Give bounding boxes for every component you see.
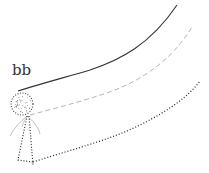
dotted-tail	[18, 116, 33, 165]
stipple-dot	[16, 105, 17, 106]
dotted-curve	[33, 81, 200, 162]
stipple-dot	[26, 110, 27, 111]
dashed-curve	[30, 27, 192, 115]
stippled-sphere	[11, 93, 33, 115]
stipple-dot	[19, 99, 20, 100]
stipple-dot	[17, 102, 18, 103]
stipple-dot	[16, 107, 17, 108]
stipple-dot	[20, 100, 21, 101]
stipple-dot	[16, 101, 17, 102]
stipple-dot	[26, 102, 27, 103]
diagram-canvas: bb	[0, 0, 209, 173]
stipple-dot	[18, 108, 19, 109]
stipple-dot	[29, 108, 30, 109]
stipple-dot	[26, 108, 27, 109]
stipple-dot	[27, 97, 28, 98]
stipple-dot	[21, 108, 22, 109]
stipple-dot	[26, 111, 27, 112]
stipple-dot	[20, 101, 21, 102]
stipple-dot	[22, 112, 23, 113]
diagram-label: bb	[12, 61, 31, 79]
stipple-dot	[30, 100, 31, 101]
stipple-dot	[17, 104, 18, 105]
stipple-dot	[22, 105, 23, 106]
stipple-dot	[14, 107, 15, 108]
solid-curve	[18, 5, 177, 91]
stipple-dot	[19, 104, 20, 105]
stipple-dot	[24, 107, 25, 108]
stipple-dot	[15, 104, 16, 105]
stipple-dot	[19, 97, 20, 98]
stipple-dot	[22, 96, 23, 97]
stipple-dot	[17, 104, 18, 105]
stipple-dot	[17, 100, 18, 101]
stipple-dot	[25, 102, 26, 103]
stipple-dot	[21, 100, 22, 101]
stipple-dot	[21, 111, 22, 112]
strands	[10, 116, 40, 136]
stipple-dot	[27, 105, 28, 106]
